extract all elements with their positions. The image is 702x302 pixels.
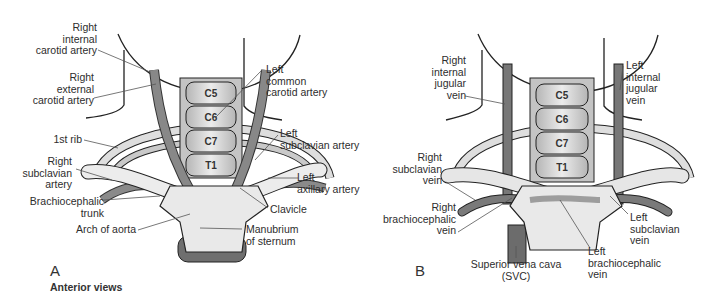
label-first-rib: 1st rib [53, 134, 82, 146]
label-arch-of-aorta: Arch of aorta [76, 224, 136, 236]
vertebra-t1-a: T1 [205, 160, 217, 171]
label-left-subclavian-vein: Left subclavian vein [630, 212, 680, 247]
label-right-internal-jugular-vein: Right internal jugular vein [432, 55, 466, 101]
label-right-brachiocephalic-vein: Right brachiocephalic vein [383, 202, 456, 237]
label-left-brachiocephalic-vein: Left brachiocephalic vein [588, 246, 661, 281]
vertebral-column-b: C5 C6 C7 T1 [530, 78, 594, 182]
panel-letter-b: B [415, 262, 425, 279]
label-left-axillary-artery: Left axillary artery [297, 172, 359, 195]
vertebra-t1-b: T1 [556, 162, 568, 173]
label-right-subclavian-vein: Right subclavian vein [392, 152, 442, 187]
label-right-internal-carotid-artery: Right internal carotid artery [36, 22, 97, 57]
label-clavicle: Clavicle [270, 204, 307, 216]
label-superior-vena-cava: Superior vena cava (SVC) [464, 259, 568, 282]
label-brachiocephalic-trunk: Brachiocephalic trunk [30, 196, 104, 219]
vertebral-column: C5 C6 C7 T1 [180, 78, 242, 178]
label-left-common-carotid-artery: Left common carotid artery [266, 64, 327, 99]
label-right-subclavian-artery: Right subclavian artery [22, 156, 72, 191]
label-right-external-carotid-artery: Right external carotid artery [33, 72, 94, 107]
vertebra-c7-b: C7 [556, 138, 569, 149]
left-brachiocephalic-vein [530, 198, 600, 200]
vertebra-c6-b: C6 [556, 114, 569, 125]
vertebra-c7-a: C7 [205, 136, 218, 147]
panel-letter-a: A [50, 262, 60, 279]
vertebra-c5-a: C5 [205, 88, 218, 99]
vertebra-c5-b: C5 [556, 90, 569, 101]
figure-caption: Anterior views [50, 281, 122, 293]
label-manubrium-of-sternum: Manubrium of sternum [246, 224, 299, 247]
label-left-internal-jugular-vein: Left internal jugular vein [626, 60, 660, 106]
label-left-subclavian-artery: Left subclavian artery [280, 128, 359, 151]
